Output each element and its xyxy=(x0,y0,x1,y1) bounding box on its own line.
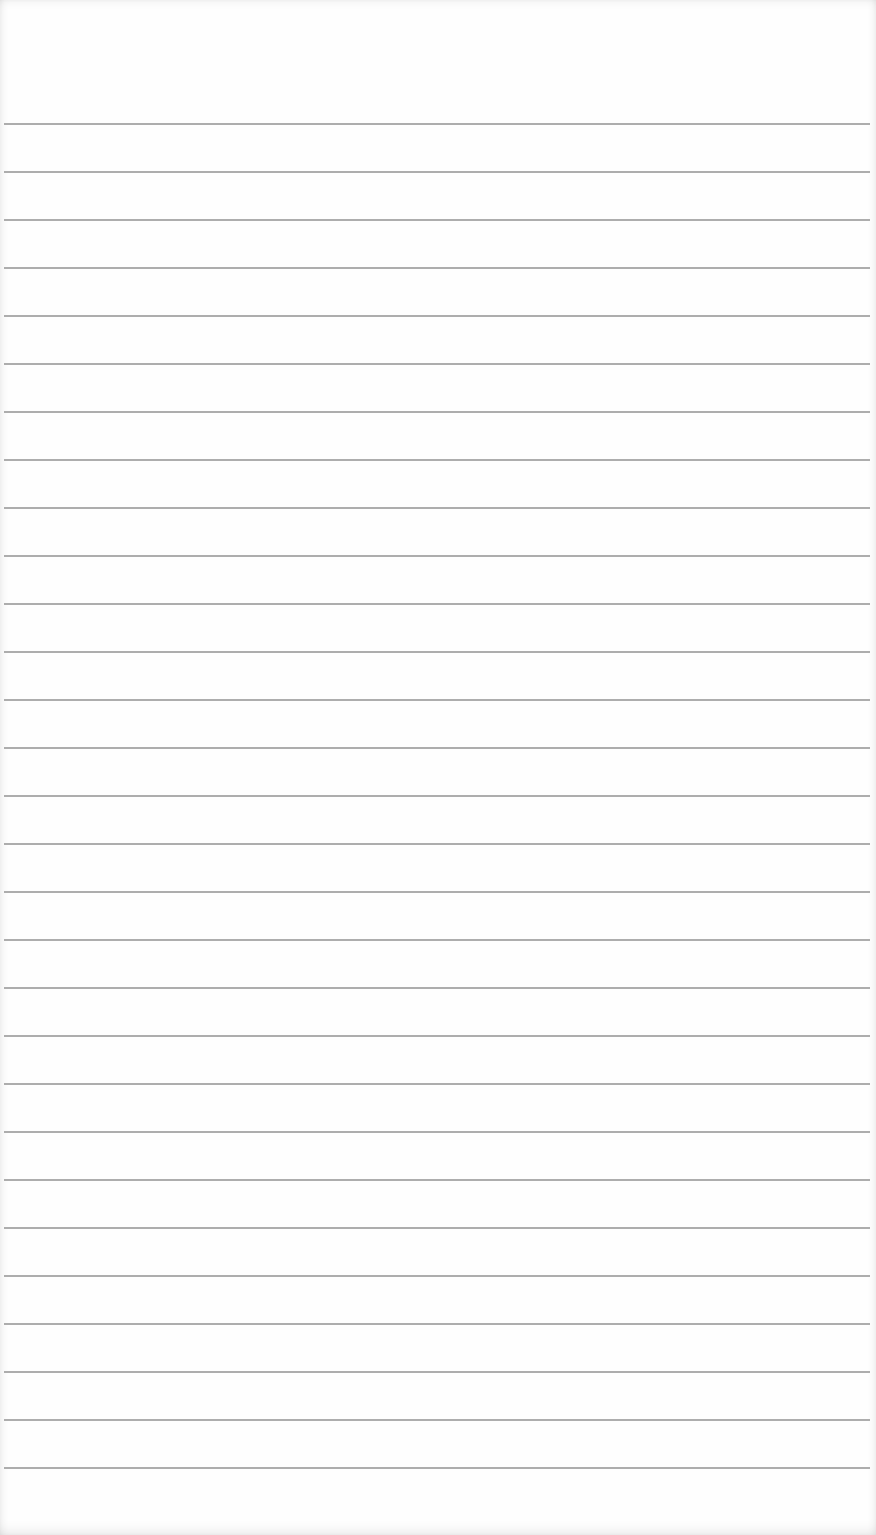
ruled-line xyxy=(4,363,870,365)
ruled-line xyxy=(4,987,870,989)
ruled-line xyxy=(4,123,870,125)
ruled-line xyxy=(4,1467,870,1469)
page-description: Blank ruled notebook paper xyxy=(0,0,1,1)
ruled-line xyxy=(4,939,870,941)
ruled-line xyxy=(4,1131,870,1133)
ruled-line xyxy=(4,459,870,461)
ruled-line xyxy=(4,1179,870,1181)
ruled-line xyxy=(4,507,870,509)
ruled-line xyxy=(4,1419,870,1421)
ruled-line xyxy=(4,651,870,653)
ruled-line xyxy=(4,219,870,221)
ruled-line xyxy=(4,411,870,413)
ruled-line xyxy=(4,1371,870,1373)
ruled-line xyxy=(4,891,870,893)
ruled-line xyxy=(4,1275,870,1277)
ruled-line xyxy=(4,171,870,173)
ruled-line xyxy=(4,555,870,557)
ruled-line xyxy=(4,1035,870,1037)
ruled-line xyxy=(4,315,870,317)
ruled-line xyxy=(4,1323,870,1325)
ruled-line xyxy=(4,267,870,269)
ruled-paper-sheet: Blank ruled notebook paper xyxy=(0,0,876,1535)
ruled-line xyxy=(4,747,870,749)
ruled-line xyxy=(4,843,870,845)
ruled-line xyxy=(4,795,870,797)
ruled-line xyxy=(4,603,870,605)
ruled-line xyxy=(4,1227,870,1229)
ruled-line xyxy=(4,699,870,701)
ruled-line xyxy=(4,1083,870,1085)
